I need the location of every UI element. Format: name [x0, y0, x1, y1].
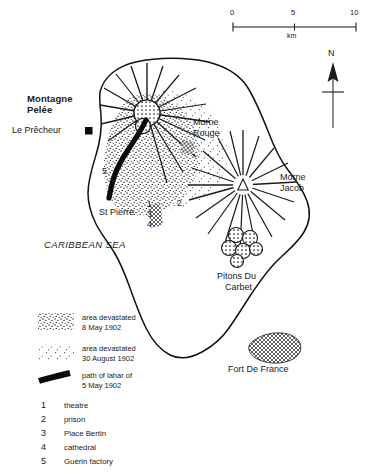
morne-rouge-symbol [180, 140, 195, 155]
scale-tick-0: 0 [230, 9, 234, 17]
label-morne-rouge-line2: Rouge [193, 128, 220, 138]
scale-tick-5: 5 [291, 9, 295, 17]
label-morne-jacob-line1: Morne [280, 172, 306, 182]
legend-item-1-line1: area devastated [82, 344, 136, 354]
key-number-5: 5 [41, 456, 46, 466]
label-montagne-pelee-line2: Pelée [27, 105, 52, 116]
key-number-2: 2 [41, 414, 46, 424]
map-figure: 0 5 10 km N Montagne Pelée Le Prêcheur M… [0, 0, 371, 473]
scale-bar-graphic [233, 23, 356, 32]
key-number-4: 4 [41, 442, 46, 452]
legend-item-0-line1: area devastated [82, 313, 136, 323]
label-morne-rouge-line1: Morne [193, 117, 219, 127]
key-label-4: cathedral [64, 444, 96, 453]
legend-item-2-line1: path of lahar of [82, 371, 132, 381]
scale-unit-label: km [287, 32, 296, 40]
label-fort-de-france: Fort De France [228, 364, 289, 374]
legend-item-0-line2: 8 May 1902 [82, 323, 121, 333]
legend-swatch-sparse-stipple [38, 344, 74, 360]
label-morne-jacob-line2: Jacob [280, 183, 304, 193]
label-pitons-du-carbet-line2: Carbet [225, 282, 252, 292]
scale-tick-10: 10 [350, 9, 358, 17]
key-label-2: prison [64, 416, 85, 425]
label-caribbean-sea: CARIBBEAN SEA [44, 240, 126, 251]
legend-item-2-line2: 5 May 1902 [82, 381, 121, 391]
key-label-3: Place Bertin [64, 430, 106, 439]
le-precheur-marker [85, 127, 93, 135]
label-st-pierre: St Pierre [99, 207, 134, 217]
legend-swatch-dense-stipple [38, 313, 74, 330]
map-number-2: 2 [177, 199, 182, 209]
key-label-5: Guérin factory [64, 458, 113, 467]
label-pitons-du-carbet-line1: Pitons Du [217, 271, 256, 281]
legend-item-1-line2: 30 August 1902 [82, 354, 134, 364]
map-graphics [0, 0, 371, 473]
map-number-4: 4 [147, 220, 152, 230]
key-number-1: 1 [41, 400, 46, 410]
key-label-1: theatre [64, 402, 88, 411]
morne-jacob-summit [233, 175, 253, 195]
map-number-5: 5 [102, 167, 107, 177]
north-arrow-graphic [322, 62, 344, 128]
key-number-3: 3 [41, 428, 46, 438]
legend-swatch-lahar-path [39, 373, 70, 381]
label-le-precheur: Le Prêcheur [12, 125, 61, 135]
fort-de-france-symbol [249, 333, 301, 363]
north-arrow-label: N [328, 48, 335, 58]
